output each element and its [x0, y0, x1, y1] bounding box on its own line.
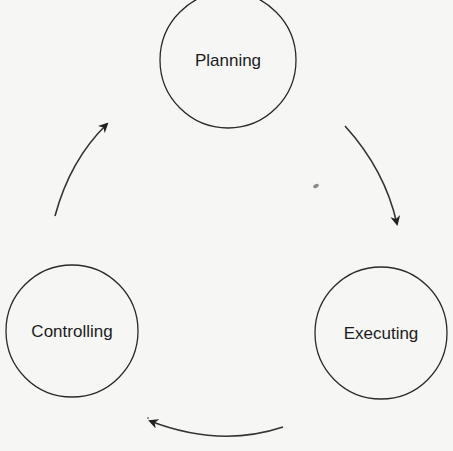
node-controlling: Controlling	[6, 265, 138, 397]
node-planning: Planning	[160, 0, 296, 128]
planning-label: Planning	[195, 51, 261, 70]
node-executing: Executing	[315, 267, 447, 399]
scan-speck	[313, 183, 320, 189]
cycle-diagram: Planning Executing Controlling	[0, 0, 453, 451]
diagram-canvas: Planning Executing Controlling	[0, 0, 453, 451]
arrow-executing-to-controlling-icon	[150, 421, 283, 436]
scan-speck	[147, 417, 149, 419]
controlling-label: Controlling	[31, 322, 112, 341]
arrow-planning-to-executing-icon	[345, 126, 397, 224]
executing-label: Executing	[344, 324, 419, 343]
arrow-controlling-to-planning-icon	[55, 124, 107, 216]
